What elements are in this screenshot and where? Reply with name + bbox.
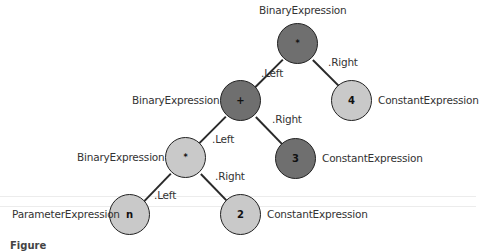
node-label-constant-3: ConstantExpression [322,152,423,164]
edge-label-root-left: .Left [261,67,283,79]
node-symbol: + [236,95,244,106]
node-label-root: BinaryExpression [259,4,347,16]
node-constant-3: 3 [275,138,316,179]
node-inner-multiply: * [165,137,206,178]
node-label-plus: BinaryExpression [132,94,220,106]
node-symbol: 2 [237,209,244,220]
edge-label-mult-right: .Right [215,170,245,182]
node-constant-2: 2 [220,194,261,235]
edge-label-plus-right: .Right [272,113,302,125]
node-symbol: n [126,209,133,220]
node-symbol: * [295,39,299,48]
node-root-multiply: * [277,23,318,64]
node-symbol: * [183,153,187,162]
node-label-constant-4: ConstantExpression [378,94,479,106]
node-symbol: 4 [348,95,355,106]
node-constant-4: 4 [331,80,372,121]
figure-caption: Figure [10,240,46,251]
node-label-constant-2: ConstantExpression [267,208,368,220]
node-label-inner-multiply: BinaryExpression [77,151,165,163]
edge-label-plus-left: .Left [212,133,234,145]
edge-label-root-right: .Right [328,56,358,68]
node-plus: + [220,80,261,121]
node-symbol: 3 [292,153,299,164]
edge-label-mult-left: .Left [154,189,176,201]
node-label-parameter-n: ParameterExpression [12,208,120,220]
